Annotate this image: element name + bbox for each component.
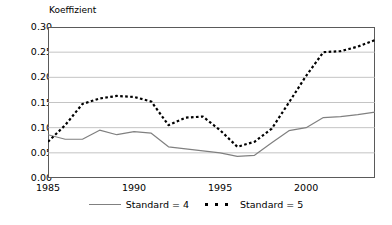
series-line-1	[48, 112, 375, 156]
y-axis-tick-label: 0.25	[12, 47, 52, 57]
coefficient-line-chart: Koeffizient 0.300.250.200.150.100.050.00…	[0, 0, 392, 225]
legend-label: Standard = 5	[240, 199, 303, 210]
series-line-2	[48, 40, 375, 147]
y-axis-tick-label: 0.30	[12, 22, 52, 32]
x-axis-tick-label: 2000	[283, 182, 329, 193]
y-axis-tick-label: 0.10	[12, 123, 52, 133]
legend-dotted-line-icon	[203, 200, 235, 209]
y-axis-tick-label: 0.15	[12, 98, 52, 108]
legend-entry-2[interactable]: Standard = 5	[203, 199, 303, 210]
y-axis-tick-label: 0.05	[12, 148, 52, 158]
legend-label: Standard = 4	[126, 199, 189, 210]
y-axis-title: Koeffizient	[49, 5, 96, 16]
x-axis-tick-label: 1995	[197, 182, 243, 193]
plot-canvas	[48, 27, 375, 178]
legend-entry-1[interactable]: Standard = 4	[89, 199, 189, 210]
chart-legend: Standard = 4Standard = 5	[0, 199, 392, 210]
x-axis-tick-label: 1985	[25, 182, 71, 193]
x-axis-tick-label: 1990	[111, 182, 157, 193]
y-axis-tick-label: 0.20	[12, 72, 52, 82]
legend-solid-line-icon	[89, 200, 121, 209]
